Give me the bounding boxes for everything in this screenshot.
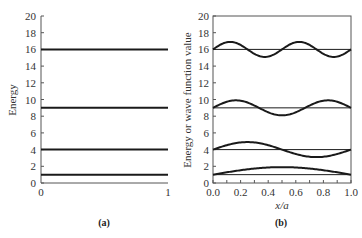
y-axis-title-a: Energy bbox=[6, 84, 18, 116]
x-tick-label: 0 bbox=[38, 186, 44, 198]
y-tick-label: 6 bbox=[31, 127, 37, 139]
y-tick-label: 4 bbox=[31, 144, 37, 156]
panel-a-label: (a) bbox=[98, 217, 110, 229]
wave-function-curve bbox=[213, 167, 351, 175]
y-tick-label: 8 bbox=[204, 110, 210, 122]
x-tick-label: 1.0 bbox=[344, 186, 358, 198]
panel-b-label: (b) bbox=[275, 217, 287, 229]
y-tick-label: 10 bbox=[198, 94, 210, 106]
y-tick-label: 12 bbox=[198, 77, 209, 89]
y-tick-label: 4 bbox=[204, 144, 210, 156]
y-tick-label: 12 bbox=[25, 77, 36, 89]
y-tick-label: 18 bbox=[25, 27, 37, 39]
x-tick-label: 0.4 bbox=[261, 186, 275, 198]
y-tick-label: 20 bbox=[198, 10, 210, 22]
y-tick-label: 2 bbox=[204, 160, 210, 172]
y-axis-title-b: Energy or wave function value bbox=[181, 32, 193, 168]
x-tick-label: 0.2 bbox=[234, 186, 248, 198]
y-tick-label: 14 bbox=[25, 60, 37, 72]
y-tick-label: 0 bbox=[31, 177, 37, 189]
y-tick-label: 18 bbox=[198, 27, 210, 39]
y-tick-label: 8 bbox=[31, 110, 37, 122]
y-tick-label: 20 bbox=[25, 10, 37, 22]
y-tick-label: 14 bbox=[198, 60, 210, 72]
panel-a: 0246810121416182001 bbox=[25, 10, 171, 198]
x-axis-title-b: x/a bbox=[274, 199, 289, 211]
x-tick-label: 0.6 bbox=[289, 186, 303, 198]
panel-b: 024681012141618200.00.20.40.60.81.0 bbox=[198, 10, 358, 198]
y-tick-label: 6 bbox=[204, 127, 210, 139]
y-tick-label: 16 bbox=[198, 43, 210, 55]
x-tick-label: 1 bbox=[165, 186, 171, 198]
chart-figure: 0246810121416182001 024681012141618200.0… bbox=[0, 0, 362, 238]
y-tick-label: 16 bbox=[25, 43, 37, 55]
y-tick-label: 10 bbox=[25, 94, 37, 106]
x-tick-label: 0.8 bbox=[317, 186, 331, 198]
x-tick-label: 0.0 bbox=[206, 186, 220, 198]
y-tick-label: 2 bbox=[31, 160, 37, 172]
